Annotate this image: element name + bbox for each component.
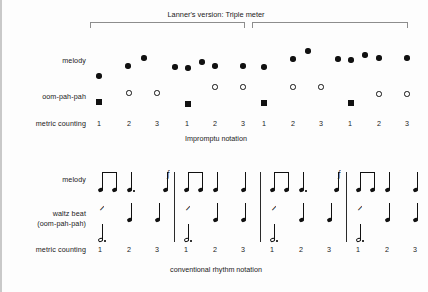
metric-count-value: 3 (238, 119, 248, 128)
pah-circle (212, 84, 217, 89)
note-stem (131, 203, 132, 220)
augmentation-dot (104, 240, 106, 242)
augmentation-dot (190, 240, 192, 242)
melody-dot (172, 64, 177, 69)
eighth-flag: ƒ (339, 171, 341, 179)
note-stem (389, 172, 390, 190)
metric-count-value: 3 (410, 245, 420, 254)
note-stem (102, 224, 103, 240)
eighth-flag: ƒ (168, 171, 170, 179)
label-metric-counting-top: metric counting (6, 119, 86, 128)
note-stem (188, 224, 189, 240)
note-stem (417, 203, 418, 220)
metric-count-value: 1 (182, 119, 192, 128)
oom-square (185, 101, 191, 107)
melody-dot (96, 73, 101, 78)
melody-dot (335, 56, 340, 61)
metric-count-value: 2 (382, 245, 392, 254)
beam (188, 172, 203, 174)
melody-dot (240, 63, 245, 68)
metric-count-value: 1 (259, 119, 269, 128)
measure-bracket (90, 22, 245, 28)
metric-count-value: 2 (288, 119, 298, 128)
pah-circle (404, 91, 409, 96)
note-stem (274, 224, 275, 240)
melody-dot (348, 57, 353, 62)
note-stem (374, 172, 375, 190)
figure-panel: Lanner's version: Triple meter melody oo… (0, 0, 428, 292)
pah-circle (376, 91, 381, 96)
metric-count-value: 2 (124, 119, 134, 128)
note-stem (116, 172, 117, 190)
pah-circle (290, 84, 295, 89)
metric-count-value: 3 (152, 119, 162, 128)
measure-bracket (252, 22, 408, 28)
note-stem (303, 172, 304, 190)
metric-count-value: 1 (94, 119, 104, 128)
pah-circle (318, 84, 323, 89)
metric-count-value: 3 (324, 245, 334, 254)
note-stem (360, 224, 361, 240)
note-stem (303, 203, 304, 220)
metric-count-value: 2 (374, 119, 384, 128)
metric-count-value: 3 (152, 245, 162, 254)
metric-count-value: 3 (402, 119, 412, 128)
note-stem (288, 172, 289, 190)
note-stem (389, 203, 390, 220)
metric-count-value: 1 (353, 245, 363, 254)
oom-square (96, 99, 102, 105)
label-metric-counting-bottom: metric counting (6, 245, 86, 254)
label-waltz-beat-line2: (oom-pah-pah) (4, 219, 86, 228)
oom-square (261, 100, 267, 106)
quarter-rest: ⸍ (271, 205, 275, 216)
melody-dot (199, 59, 204, 64)
metric-count-value: 1 (181, 245, 191, 254)
label-oom-pah-pah: oom-pah-pah (10, 92, 86, 101)
melody-dot (376, 55, 381, 60)
metric-count-value: 2 (210, 245, 220, 254)
note-stem (217, 203, 218, 220)
note-stem (102, 172, 103, 190)
melody-dot (290, 56, 295, 61)
melody-dot (212, 63, 217, 68)
note-stem (245, 172, 246, 190)
melody-dot (404, 55, 409, 60)
caption-conventional: conventional rhythm notation (2, 265, 428, 274)
note-stem (217, 172, 218, 190)
melody-dot (362, 52, 367, 57)
metric-count-value: 2 (296, 245, 306, 254)
metric-count-value: 1 (95, 245, 105, 254)
metric-count-value: 3 (238, 245, 248, 254)
augmentation-dot (133, 190, 135, 192)
augmentation-dot (305, 190, 307, 192)
metric-count-value: 1 (345, 119, 355, 128)
augmentation-dot (276, 240, 278, 242)
melody-dot (305, 48, 310, 53)
barline (346, 172, 347, 242)
figure-title: Lanner's version: Triple meter (2, 10, 428, 19)
melody-dot (185, 65, 190, 70)
pah-circle (240, 84, 245, 89)
note-stem (202, 172, 203, 190)
melody-dot (125, 63, 130, 68)
note-stem (131, 172, 132, 190)
note-stem (159, 203, 160, 220)
barline (174, 172, 175, 242)
beam (102, 172, 117, 174)
beam (274, 172, 289, 174)
oom-square (348, 100, 354, 106)
label-waltz-beat-line1: waltz beat (10, 209, 86, 218)
metric-count-value: 1 (267, 245, 277, 254)
metric-count-value: 3 (316, 119, 326, 128)
label-melody-top: melody (10, 56, 86, 65)
pah-circle (154, 90, 159, 95)
quarter-rest: ⸍ (99, 205, 103, 216)
beam (360, 172, 375, 174)
label-melody-bottom: melody (10, 175, 86, 184)
metric-count-value: 2 (210, 119, 220, 128)
note-stem (360, 172, 361, 190)
augmentation-dot (362, 240, 364, 242)
melody-dot (261, 64, 266, 69)
quarter-rest: ⸍ (185, 205, 189, 216)
note-stem (417, 172, 418, 190)
